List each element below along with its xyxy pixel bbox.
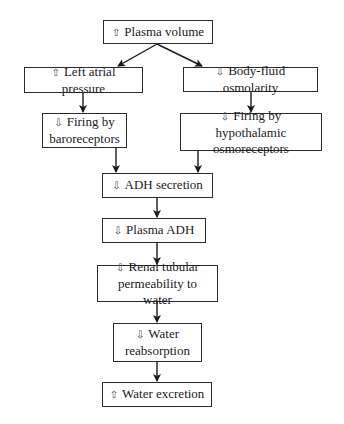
node-water-reabsorption: ⇩Waterreabsorption: [113, 323, 202, 362]
node-renal-permeability: ⇩Renal tubularpermeability to water: [97, 265, 218, 302]
decrease-arrow-icon: ⇩: [136, 329, 144, 340]
node-plasma-volume: ⇧Plasma volume: [103, 20, 213, 44]
increase-arrow-icon: ⇧: [112, 27, 120, 38]
node-label: ADH secretion: [125, 177, 203, 192]
increase-arrow-icon: ⇧: [52, 67, 60, 78]
node-label-line2: permeability to water: [118, 276, 197, 307]
node-label: Renal tubular: [128, 259, 198, 274]
node-label-line2: baroreceptors: [49, 131, 120, 146]
node-water-excretion: ⇧Water excretion: [102, 382, 212, 407]
decrease-arrow-icon: ⇩: [114, 225, 122, 236]
node-label: Body-fluid osmolarity: [223, 63, 286, 95]
node-adh-secretion: ⇩ADH secretion: [102, 173, 213, 198]
node-plasma-adh: ⇩Plasma ADH: [102, 218, 206, 243]
decrease-arrow-icon: ⇩: [216, 66, 224, 77]
decrease-arrow-icon: ⇩: [112, 180, 120, 191]
node-label: Water excretion: [122, 386, 204, 401]
decrease-arrow-icon: ⇩: [221, 111, 229, 122]
decrease-arrow-icon: ⇩: [54, 117, 62, 128]
increase-arrow-icon: ⇧: [110, 389, 118, 400]
node-left-atrial-pressure: ⇧Left atrial pressure: [24, 67, 143, 93]
adh-flowchart: ⇧Plasma volume ⇧Left atrial pressure ⇩Bo…: [0, 0, 344, 424]
node-label-line2: reabsorption: [125, 343, 190, 358]
node-label-line2: osmoreceptors: [213, 141, 289, 156]
node-body-fluid-osmolarity: ⇩Body-fluid osmolarity: [183, 67, 318, 92]
node-label: Left atrial pressure: [62, 64, 116, 96]
node-firing-baroreceptors: ⇩Firing bybaroreceptors: [42, 113, 127, 148]
node-firing-osmoreceptors: ⇩Firing by hypothalamicosmoreceptors: [180, 113, 322, 151]
node-label: Plasma ADH: [126, 222, 194, 237]
node-label: Plasma volume: [124, 24, 204, 39]
node-label: Water: [148, 326, 179, 341]
node-label: Firing by: [67, 114, 115, 129]
decrease-arrow-icon: ⇩: [116, 262, 124, 273]
